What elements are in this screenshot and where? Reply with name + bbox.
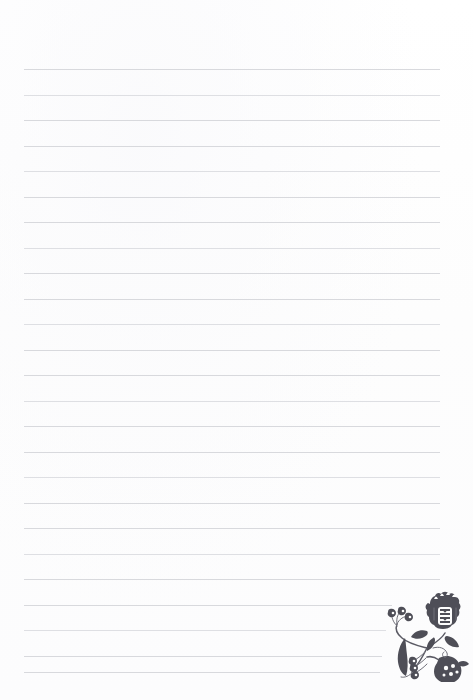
rule-line [24,528,440,529]
rule-line [24,350,440,351]
rule-line [24,630,386,631]
rule-line [24,248,440,249]
rule-line [24,452,440,453]
rule-line [24,222,440,223]
rule-line [24,375,440,376]
rule-line [24,299,440,300]
rule-line [24,477,440,478]
rule-line [24,273,440,274]
rule-line [24,146,440,147]
rule-line [24,656,382,657]
rule-line [24,171,440,172]
rule-line [24,554,440,555]
rule-line [24,503,440,504]
rule-line [24,69,440,70]
rule-line [24,120,440,121]
writing-paper-page [0,0,473,700]
ruled-lines-group [0,0,473,700]
rule-line [24,426,440,427]
rule-line [24,197,440,198]
rule-line [24,324,440,325]
rule-line [24,605,392,606]
rule-line [24,579,440,580]
rule-line [24,95,440,96]
rule-line [24,672,380,673]
rule-line [24,401,440,402]
